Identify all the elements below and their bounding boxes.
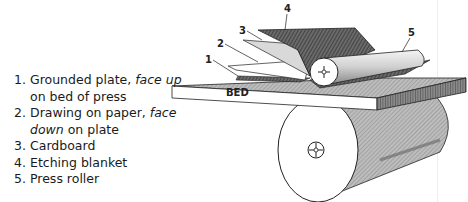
legend-number: 3. <box>8 138 30 155</box>
callout-3: 3 <box>239 25 246 36</box>
legend-item-3: 3. Cardboard <box>8 138 183 155</box>
legend-text-line2-italic: down <box>30 122 64 137</box>
legend-text: Drawing on paper, face down on plate <box>30 105 176 138</box>
legend-text-part: Drawing on paper, <box>30 105 150 120</box>
legend-list: 1. Grounded plate, face up on bed of pre… <box>8 72 183 188</box>
legend-text: Cardboard <box>30 138 95 155</box>
legend-item-5: 5. Press roller <box>8 171 183 188</box>
legend-text: Etching blanket <box>30 155 127 172</box>
legend-text: Press roller <box>30 171 99 188</box>
legend-text-part: Grounded plate, <box>30 72 135 87</box>
legend-text-line2: on plate <box>64 122 119 137</box>
legend-item-4: 4. Etching blanket <box>8 155 183 172</box>
bed-label: BED <box>226 87 249 98</box>
legend-text-italic: face <box>150 105 177 120</box>
callout-2: 2 <box>217 38 224 49</box>
callout-1: 1 <box>205 54 212 65</box>
legend-number: 5. <box>8 171 30 188</box>
legend-item-1: 1. Grounded plate, face up on bed of pre… <box>8 72 183 105</box>
legend-number: 4. <box>8 155 30 172</box>
legend-number: 1. <box>8 72 30 105</box>
callout-5: 5 <box>408 27 415 38</box>
legend-item-2: 2. Drawing on paper, face down on plate <box>8 105 183 138</box>
legend-text-line2: on bed of press <box>30 89 127 104</box>
legend-text: Grounded plate, face up on bed of press <box>30 72 182 105</box>
callout-4: 4 <box>284 3 291 14</box>
legend-text-italic: face up <box>135 72 181 87</box>
legend-number: 2. <box>8 105 30 138</box>
